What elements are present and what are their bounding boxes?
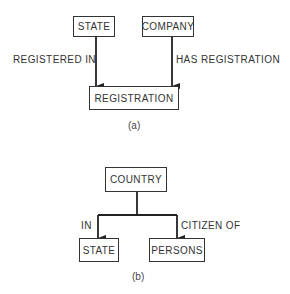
entity-state-a: STATE (73, 16, 115, 37)
relationship-label-citizen-of: CITIZEN OF (181, 220, 241, 231)
entity-label: PERSONS (151, 245, 203, 256)
relationship-label-in: IN (81, 220, 92, 231)
caption-b: (b) (132, 271, 144, 282)
entity-label: STATE (78, 21, 111, 32)
entity-label: REGISTRATION (94, 93, 173, 104)
entity-label: COMPANY (142, 21, 195, 32)
relationship-label-registered-in: REGISTERED IN (13, 54, 96, 65)
entity-company: COMPANY (142, 16, 194, 37)
entity-persons: PERSONS (149, 238, 205, 262)
relationship-label-has-registration: HAS REGISTRATION (176, 54, 280, 65)
caption-a: (a) (128, 120, 140, 131)
entity-label: COUNTRY (110, 174, 162, 185)
entity-label: STATE (83, 245, 116, 256)
entity-country: COUNTRY (105, 167, 167, 192)
connector-lines (0, 0, 290, 294)
entity-registration: REGISTRATION (89, 86, 179, 110)
entity-state-b: STATE (79, 238, 119, 262)
